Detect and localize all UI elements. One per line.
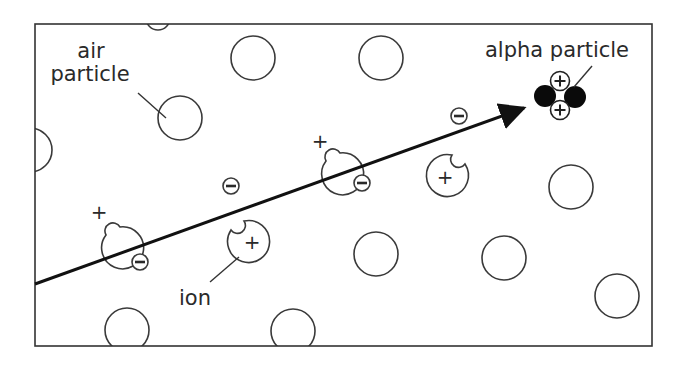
electron <box>132 254 148 270</box>
air-particle <box>158 96 202 140</box>
plus-sign: + <box>437 165 454 189</box>
label-air: air <box>77 39 105 63</box>
air-particle <box>354 232 398 276</box>
label-ion: ion <box>179 286 211 310</box>
proton <box>551 72 570 91</box>
diagram-canvas: + + + + <box>0 0 684 366</box>
label-alpha-particle: alpha particle <box>485 38 629 62</box>
plus-sign: + <box>312 129 329 153</box>
minus-sign <box>135 261 145 264</box>
proton <box>551 101 570 120</box>
ion-leader <box>210 257 239 282</box>
air-particle <box>146 6 170 30</box>
electron <box>451 108 467 124</box>
ion: + <box>228 220 270 262</box>
minus-sign <box>454 115 464 118</box>
air-particle <box>8 128 52 172</box>
ion: + <box>426 154 468 196</box>
alpha-particle-leader <box>574 66 592 87</box>
air-particle <box>549 165 593 209</box>
air-particle <box>482 236 526 280</box>
air-particle <box>595 274 639 318</box>
alpha-particle <box>534 72 586 120</box>
air-particle <box>359 36 403 80</box>
label-particle: particle <box>50 62 129 86</box>
air-particle <box>231 36 275 80</box>
electron <box>223 178 239 194</box>
plus-sign: + <box>91 200 108 224</box>
minus-sign <box>226 185 236 188</box>
minus-sign <box>357 182 367 185</box>
plus-sign: + <box>244 230 261 254</box>
electron <box>354 175 370 191</box>
